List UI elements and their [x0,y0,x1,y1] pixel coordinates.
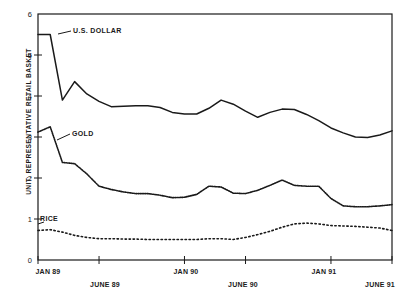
plot-frame [38,14,392,260]
leader-us-dollar [58,31,71,34]
series-line-gold [38,127,392,207]
series-line-u-s-dollar [38,35,392,138]
axis-ticks [34,55,392,264]
leader-gold [57,134,70,140]
leader-rice [38,222,44,224]
data-series-group [38,35,392,240]
plot-area [0,0,410,308]
chart-container: UNIT: REPRESENTATIVE RETAIL BASKET 6 5 4… [0,0,410,308]
axis-frame [38,14,392,260]
series-line-rice [38,223,392,239]
